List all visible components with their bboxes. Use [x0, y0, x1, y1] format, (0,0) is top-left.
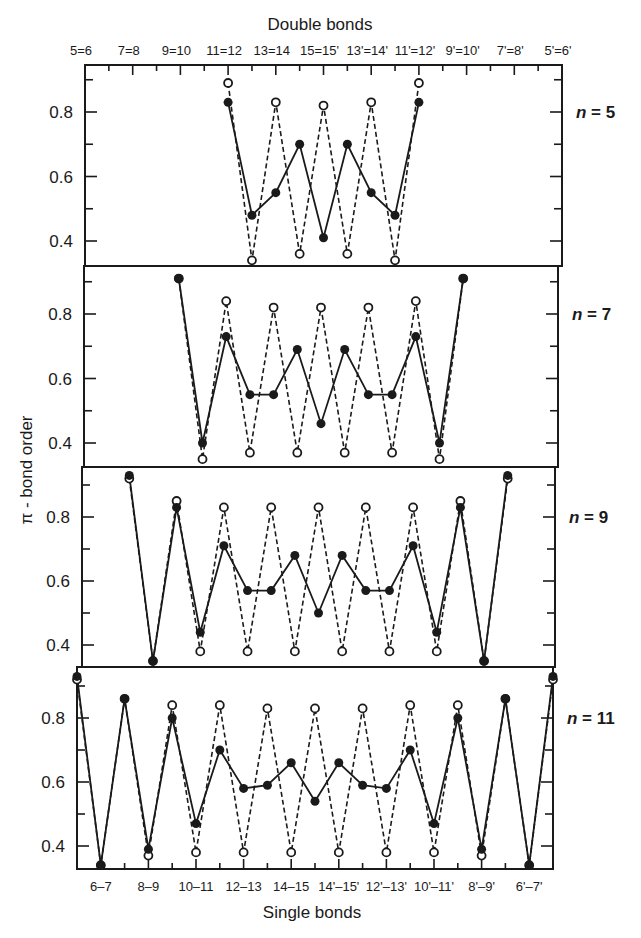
filled-circle-marker: [198, 439, 207, 448]
filled-circle-marker: [338, 551, 347, 560]
filled-circle-marker: [319, 233, 328, 242]
filled-circle-marker: [388, 390, 397, 399]
panel-frame: [82, 467, 555, 667]
filled-circle-marker: [406, 746, 415, 755]
bottom-tick-label: 12–13: [226, 879, 262, 894]
filled-circle-marker: [501, 694, 510, 703]
panel-label-n: n: [572, 305, 582, 324]
open-circle-marker: [338, 647, 346, 655]
filled-circle-marker: [477, 845, 486, 854]
filled-circle-marker: [480, 657, 489, 666]
filled-circle-marker: [125, 471, 134, 480]
open-circle-marker: [359, 704, 367, 712]
y-tick-label: 0.4: [46, 636, 70, 655]
panel-label: n = 5: [576, 103, 615, 122]
open-circle-marker: [315, 503, 323, 511]
open-circle-marker: [320, 102, 328, 110]
open-circle-marker: [224, 79, 232, 87]
bottom-tick-label: 12'–13': [366, 879, 407, 894]
y-tick-label: 0.8: [46, 508, 70, 527]
open-circle-marker: [246, 449, 254, 457]
open-circle-marker: [216, 701, 224, 709]
open-circle-marker: [388, 449, 396, 457]
filled-circle-marker: [287, 758, 296, 767]
open-circle-marker: [367, 98, 375, 106]
panel-n7: 0.40.60.8n = 7: [48, 266, 611, 467]
open-circle-marker: [385, 647, 393, 655]
panel-label-value: = 11: [577, 709, 614, 728]
panel-label-value: = 7: [582, 305, 611, 324]
y-tick-label: 0.4: [41, 837, 65, 856]
bottom-tick-labels: 6–78–910–1112–1314–1514'–15'12'–13'10'–1…: [90, 879, 543, 894]
open-circle-marker: [296, 250, 304, 258]
open-circle-marker: [436, 455, 444, 463]
filled-circle-marker: [367, 188, 376, 197]
filled-circle-marker: [361, 586, 370, 595]
filled-circle-marker: [317, 419, 326, 428]
filled-circle-marker: [243, 586, 252, 595]
filled-circle-marker: [215, 746, 224, 755]
filled-circle-marker: [343, 140, 352, 149]
y-tick-label: 0.6: [48, 370, 72, 389]
filled-circle-marker: [391, 211, 400, 220]
filled-circle-marker: [340, 345, 349, 354]
panel-label: n = 11: [567, 709, 615, 728]
filled-circle-marker: [459, 274, 468, 283]
open-circle-marker: [244, 647, 252, 655]
panel-label: n = 7: [572, 305, 611, 324]
panel-label: n = 9: [569, 508, 608, 527]
panel-label-n: n: [567, 709, 577, 728]
filled-circle-marker: [414, 98, 423, 107]
filled-circle-marker: [409, 541, 418, 550]
y-axis-title: π - bond order: [17, 415, 36, 524]
top-tick-label: 11=12: [206, 43, 242, 58]
open-circle-marker: [267, 503, 275, 511]
top-tick-label: 7'=8': [497, 43, 524, 58]
open-circle-marker: [343, 250, 351, 258]
filled-series-line: [228, 102, 419, 237]
filled-circle-marker: [96, 861, 105, 870]
open-circle-marker: [454, 701, 462, 709]
panel-n9: 0.40.60.8n = 9: [46, 467, 608, 667]
y-tick-label: 0.4: [48, 434, 72, 453]
bottom-tick-label: 8'–9': [468, 879, 495, 894]
filled-circle-marker: [224, 98, 233, 107]
panel-label-n: n: [569, 508, 579, 527]
top-tick-label: 9'=10': [445, 43, 479, 58]
filled-circle-marker: [120, 694, 129, 703]
y-tick-label: 0.6: [46, 572, 70, 591]
top-axis-title: Double bonds: [268, 15, 373, 34]
bond-order-chart: Double bonds 5=67=89=1011=1213=1415=15'1…: [0, 0, 641, 938]
filled-circle-marker: [222, 332, 231, 341]
filled-circle-marker: [549, 672, 558, 681]
open-circle-marker: [391, 256, 399, 264]
open-circle-marker: [220, 503, 228, 511]
panel-n5: 0.40.60.8n = 5: [49, 65, 615, 266]
open-circle-marker: [317, 304, 325, 312]
filled-circle-marker: [148, 657, 157, 666]
filled-circle-marker: [172, 503, 181, 512]
chart-panels: 0.40.60.8n = 50.40.60.8n = 70.40.60.8n =…: [41, 65, 615, 870]
filled-circle-marker: [311, 797, 320, 806]
filled-circle-marker: [192, 819, 201, 828]
open-circle-marker: [409, 503, 417, 511]
open-circle-marker: [192, 848, 200, 856]
open-circle-marker: [311, 704, 319, 712]
bottom-tick-label: 14'–15': [318, 879, 359, 894]
open-circle-marker: [240, 848, 248, 856]
bottom-tick-label: 10–11: [178, 879, 213, 894]
open-circle-marker: [412, 297, 420, 305]
filled-circle-marker: [247, 211, 256, 220]
filled-circle-marker: [196, 628, 205, 637]
open-circle-marker: [362, 503, 370, 511]
filled-circle-marker: [174, 274, 183, 283]
filled-circle-marker: [435, 439, 444, 448]
open-circle-marker: [293, 449, 301, 457]
filled-circle-marker: [239, 784, 248, 793]
filled-circle-marker: [525, 861, 534, 870]
y-tick-label: 0.6: [41, 773, 65, 792]
open-circle-marker: [168, 701, 176, 709]
top-tick-label: 5=6: [70, 43, 92, 58]
y-tick-label: 0.8: [49, 103, 73, 122]
bottom-tick-label: 6'–7': [516, 879, 543, 894]
